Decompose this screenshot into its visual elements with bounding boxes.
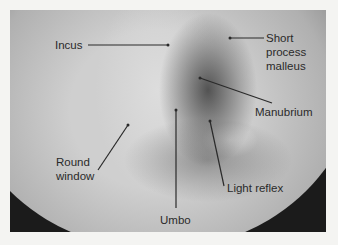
label-line: window (56, 169, 94, 183)
label-line: Short (266, 31, 306, 45)
light-reflex-leader-dot (209, 120, 212, 123)
label-incus: Incus (55, 38, 83, 52)
round-window-leader (98, 125, 128, 170)
short-process-leader-dot (229, 37, 232, 40)
label-line: Round (56, 155, 94, 169)
light-reflex-leader (210, 121, 224, 186)
label-manubrium: Manubrium (255, 105, 313, 119)
umbo-leader-dot (175, 109, 178, 112)
label-umbo: Umbo (160, 213, 191, 227)
label-light-reflex: Light reflex (227, 181, 283, 195)
incus-leader-dot (167, 44, 170, 47)
label-short-process-malleus: Short process malleus (266, 31, 306, 73)
round-window-leader-dot (127, 124, 130, 127)
label-round-window: Round window (56, 155, 94, 183)
manubrium-leader-dot (199, 77, 202, 80)
label-line: process (266, 45, 306, 59)
label-line: malleus (266, 59, 306, 73)
manubrium-leader (200, 78, 272, 103)
